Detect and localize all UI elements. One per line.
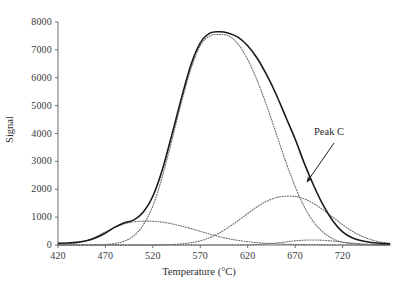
y-tick-label: 1000 xyxy=(8,212,52,222)
peak-c-annotation-label: Peak C xyxy=(314,126,344,137)
x-tick-label: 620 xyxy=(228,251,268,261)
y-tick-label: 5000 xyxy=(8,101,52,111)
peak-c-arrow xyxy=(307,143,334,182)
x-tick-label: 420 xyxy=(38,251,78,261)
y-tick-label: 3000 xyxy=(8,156,52,166)
x-tick-label: 520 xyxy=(133,251,173,261)
x-tick-label: 670 xyxy=(275,251,315,261)
series-curve-total-signal xyxy=(58,32,390,244)
y-axis-title: Signal xyxy=(4,108,15,152)
y-tick-label: 8000 xyxy=(8,17,52,27)
series-curve-peak-b xyxy=(58,34,390,245)
x-tick-label: 720 xyxy=(323,251,363,261)
signal-deconvolution-chart: 010002000300040005000600070008000 420470… xyxy=(0,0,398,288)
y-tick-label: 4000 xyxy=(8,129,52,139)
x-tick-label: 470 xyxy=(85,251,125,261)
x-axis-title: Temperature (°C) xyxy=(0,266,398,277)
y-tick-label: 2000 xyxy=(8,184,52,194)
y-tick-label: 0 xyxy=(8,240,52,250)
annotation-arrow-group xyxy=(307,143,334,182)
y-tick-label: 7000 xyxy=(8,45,52,55)
component-curves xyxy=(58,34,390,245)
chart-plot-area xyxy=(0,0,398,288)
total-curve xyxy=(58,32,390,244)
y-tick-label: 6000 xyxy=(8,73,52,83)
x-tick-label: 570 xyxy=(180,251,220,261)
